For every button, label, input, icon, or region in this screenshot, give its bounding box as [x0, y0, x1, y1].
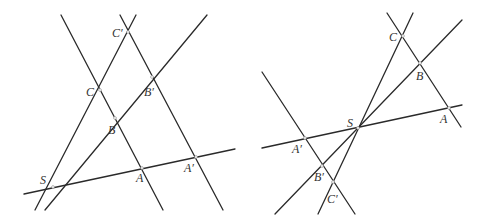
line — [262, 72, 355, 214]
point-label: S — [347, 116, 353, 130]
line — [318, 13, 413, 214]
line — [275, 20, 462, 214]
right-lines — [262, 13, 462, 214]
point-marker — [99, 89, 102, 92]
point-marker — [52, 186, 55, 189]
point-label: C — [389, 30, 398, 44]
point-marker — [114, 117, 117, 120]
point-marker — [357, 127, 360, 130]
figure-left: SABCA′B′C′ — [24, 15, 235, 210]
desargues-diagram: SABCA′B′C′ SABCA′B′C′ — [0, 0, 484, 224]
line — [45, 15, 207, 210]
point-label: A′ — [291, 142, 302, 156]
point-label: C′ — [327, 192, 338, 206]
left-points — [52, 31, 198, 189]
point-label: A — [135, 171, 144, 185]
point-marker — [402, 35, 405, 38]
point-marker — [448, 107, 451, 110]
point-label: B′ — [314, 170, 324, 184]
line — [387, 13, 461, 127]
point-marker — [332, 181, 335, 184]
point-label: B — [416, 69, 424, 83]
point-marker — [304, 137, 307, 140]
point-label: B′ — [144, 85, 154, 99]
point-marker — [321, 165, 324, 168]
right-labels: SABCA′B′C′ — [291, 30, 448, 206]
point-label: B — [108, 123, 116, 137]
point-marker — [141, 167, 144, 170]
figure-right: SABCA′B′C′ — [262, 13, 462, 214]
point-marker — [127, 31, 130, 34]
line — [61, 15, 163, 210]
point-marker — [151, 76, 154, 79]
point-marker — [419, 62, 422, 65]
point-marker — [195, 156, 198, 159]
point-label: C — [86, 85, 95, 99]
point-label: C′ — [112, 26, 123, 40]
point-label: A′ — [183, 161, 194, 175]
point-label: A — [439, 112, 448, 126]
left-lines — [24, 15, 235, 210]
point-label: S — [40, 173, 46, 187]
